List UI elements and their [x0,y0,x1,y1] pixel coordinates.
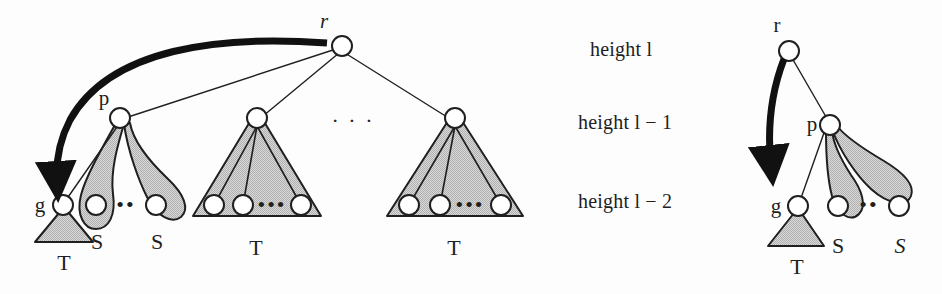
right-rotation-arrow [770,59,784,166]
node-middle-leaf-2 [233,195,253,215]
right-label-g: g [771,194,782,218]
right-diagram: r p g •• T S S [768,13,912,279]
label-g: g [35,193,46,217]
node-middle-leaf-3 [291,195,311,215]
right-lobe-ellipsis: •• [859,192,878,217]
left-root-edges [122,49,455,122]
middle-triangle-ellipsis: ••• [257,192,286,217]
right-label-root-r: r [774,13,781,37]
node-s-second-leaf [146,195,166,215]
node-g [53,195,73,215]
figure-canvas: r p g · · · •• ••• ••• T S S T T height … [0,0,942,294]
node-right-leaf-2 [430,195,450,215]
label-S-second: S [151,229,163,254]
lobe-ellipsis-left: •• [116,192,135,217]
ellipsis-between-subtrees: · · · [332,108,375,133]
node-middle-apex [247,108,267,128]
label-T-right: T [447,235,461,260]
left-diagram: r p g · · · •• ••• ••• T S S T T [35,9,523,275]
right-triangle-ellipsis: ••• [455,192,484,217]
right-label-S-second: S [895,233,906,258]
label-S-first: S [91,229,103,254]
tree-rotation-diagram: r p g · · · •• ••• ••• T S S T T height … [0,0,942,294]
node-right-leaf-1 [399,195,419,215]
node-middle-leaf-1 [204,195,224,215]
node-p [110,108,130,128]
node-root-r [332,36,352,56]
height-label-middle: height l − 1 [578,111,672,134]
node-right-apex [445,108,465,128]
right-node-root-r [779,41,799,61]
height-label-column: height l height l − 1 height l − 2 [578,38,672,213]
node-right-leaf-3 [491,195,511,215]
right-node-g [788,196,808,216]
height-label-top: height l [590,38,652,61]
label-root-r: r [320,9,329,33]
right-label-S-first: S [832,233,844,258]
label-p: p [99,86,110,110]
height-label-bottom: height l − 2 [578,190,672,213]
edge-root-to-middle-subtree [257,53,339,121]
right-label-p: p [807,112,818,136]
label-T-under-g: T [57,250,71,275]
right-node-s-first-leaf [828,196,848,216]
node-s-first-leaf [86,195,106,215]
right-edge-p-to-g [801,130,825,198]
right-node-p [820,115,840,135]
label-T-middle: T [249,235,263,260]
right-label-T-under-g: T [790,254,804,279]
right-node-s-second-leaf [889,196,909,216]
